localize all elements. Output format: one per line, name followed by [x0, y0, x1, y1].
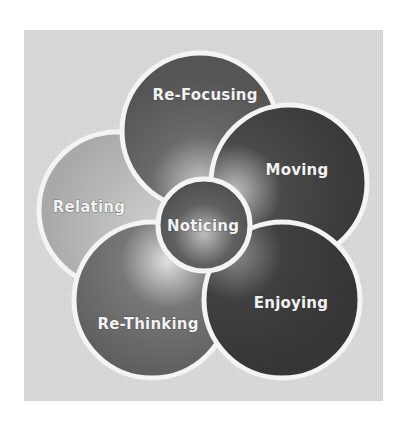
petal-diagram: Re-Focusing Moving Enjoying Re-Thinking … — [0, 0, 404, 421]
label-re-focusing: Re-Focusing — [152, 86, 257, 104]
label-noticing: Noticing — [167, 217, 239, 235]
label-enjoying: Enjoying — [254, 294, 328, 312]
label-moving: Moving — [266, 161, 329, 179]
label-relating: Relating — [53, 198, 125, 216]
label-re-thinking: Re-Thinking — [97, 315, 198, 333]
